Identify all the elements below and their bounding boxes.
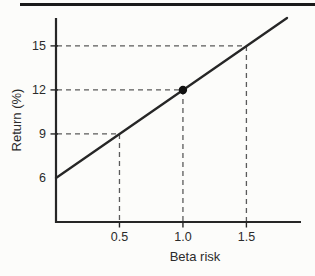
y-tick-label: 12 — [32, 83, 46, 97]
security-market-line — [56, 18, 287, 178]
y-tick-label: 9 — [39, 127, 46, 141]
figure-page: 6912150.51.01.5 Return (%) Beta risk — [0, 0, 315, 276]
y-axis-label: Return (%) — [9, 89, 24, 152]
y-tick-label: 15 — [32, 39, 46, 53]
x-tick-label: 1.0 — [174, 230, 191, 244]
chart-layer: 6912150.51.01.5 — [32, 18, 301, 244]
marker-point — [179, 86, 187, 94]
y-tick-label: 6 — [39, 171, 46, 185]
x-axis-label: Beta risk — [170, 249, 221, 264]
x-tick-label: 0.5 — [111, 230, 128, 244]
x-tick-label: 1.5 — [238, 230, 255, 244]
sml-chart: 6912150.51.01.5 Return (%) Beta risk — [0, 0, 315, 276]
